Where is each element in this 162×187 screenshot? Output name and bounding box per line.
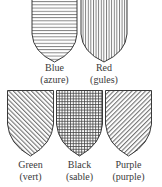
shield-diagonal-dexter-hatch-icon [7,90,54,157]
shield-blue-azure [31,0,78,64]
label-black: Black (sable) [54,159,105,183]
tincture-name-black: Black [54,159,105,171]
tincture-heraldic-black: (sable) [54,171,105,183]
tincture-heraldic-green: (vert) [5,171,56,183]
tincture-name-blue: Blue [31,62,78,74]
label-blue: Blue (azure) [31,62,78,86]
tincture-heraldic-purple: (purple) [103,171,154,183]
label-red: Red (gules) [80,62,128,86]
shield-purple [105,90,152,157]
tincture-name-green: Green [5,159,56,171]
tincture-heraldic-red: (gules) [80,74,128,86]
tincture-heraldic-blue: (azure) [31,74,78,86]
shield-diagonal-sinister-hatch-icon [105,90,152,157]
tincture-name-purple: Purple [103,159,154,171]
shield-green-vert [7,90,54,157]
shield-red-gules [80,0,128,64]
label-green: Green (vert) [5,159,56,183]
shield-black-sable [56,90,103,157]
tincture-name-red: Red [80,62,128,74]
shield-vertical-hatch-icon [80,0,128,64]
shield-horizontal-hatch-icon [31,0,78,64]
shield-crosshatch-icon [56,90,103,157]
label-purple: Purple (purple) [103,159,154,183]
